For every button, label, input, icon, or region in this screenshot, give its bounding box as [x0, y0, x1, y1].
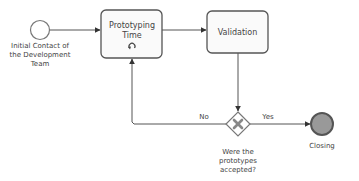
- gateway-label-line-1: Were the: [222, 148, 254, 156]
- flow-label-no: No: [199, 113, 209, 121]
- task-prototyping-label-line-2: Time: [121, 31, 142, 40]
- task-prototyping[interactable]: Prototyping Time: [101, 10, 162, 58]
- gateway-label-line-2: prototypes: [219, 157, 257, 165]
- task-prototyping-label-line-1: Prototyping: [109, 21, 155, 30]
- start-event-circle[interactable]: [31, 21, 50, 40]
- bpmn-diagram: Initial Contact of the Development Team …: [0, 0, 359, 181]
- task-validation[interactable]: Validation: [207, 11, 268, 53]
- start-event-label-line-1: Initial Contact of: [11, 42, 69, 50]
- end-event-label: Closing: [309, 142, 335, 150]
- flow-label-yes: Yes: [261, 113, 274, 121]
- task-validation-label: Validation: [218, 28, 258, 37]
- flow-gateway-no-loop[interactable]: [132, 59, 226, 124]
- end-event-circle[interactable]: [311, 113, 333, 135]
- start-event[interactable]: [31, 21, 50, 40]
- start-event-label-line-3: Team: [30, 60, 50, 68]
- exclusive-gateway[interactable]: [226, 112, 250, 136]
- start-event-label-line-2: the Development: [10, 51, 71, 59]
- end-event[interactable]: [311, 113, 333, 135]
- gateway-label-line-3: accepted?: [220, 166, 256, 174]
- sequence-flows: [50, 30, 310, 124]
